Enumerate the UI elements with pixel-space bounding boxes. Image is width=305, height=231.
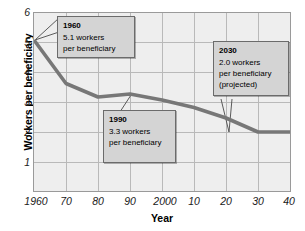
y-tick-label: 1: [14, 157, 30, 168]
y-tick-label: 2: [14, 127, 30, 138]
x-tick-label: 70: [60, 196, 72, 207]
annotation-line-3: (projected): [219, 79, 284, 90]
y-tick-label: 5: [14, 37, 30, 48]
annotation-callout-2030: 2030 2.0 workers per beneficiary (projec…: [213, 41, 289, 96]
x-tick-label: 1960: [24, 196, 47, 207]
x-tick-label: 20: [220, 196, 232, 207]
x-tick-label: 90: [124, 196, 136, 207]
annotation-year: 1960: [63, 20, 130, 31]
x-tick-label: 40: [283, 196, 295, 207]
x-tick-label: 80: [92, 196, 104, 207]
y-tick-label: 6: [14, 7, 30, 18]
x-tick-label: 2000: [153, 196, 176, 207]
x-axis-title: Year: [33, 212, 291, 224]
annotation-line-2: per beneficiary: [109, 137, 171, 148]
annotation-line-1: 2.0 workers: [219, 57, 284, 68]
annotation-callout-1990: 1990 3.3 workers per beneficiary: [103, 110, 176, 163]
annotation-year: 2030: [219, 45, 284, 56]
annotation-line-1: 5.1 workers: [63, 32, 130, 43]
annotation-line-2: per beneficiary: [63, 43, 130, 54]
y-tick-label: 4: [14, 67, 30, 78]
annotation-line-2: per beneficiary: [219, 68, 284, 79]
x-tick-label: 10: [188, 196, 200, 207]
y-tick-label: 3: [14, 97, 30, 108]
annotation-year: 1990: [109, 114, 171, 125]
annotation-callout-1960: 1960 5.1 workers per beneficiary: [57, 16, 135, 58]
x-tick-label: 30: [252, 196, 264, 207]
annotation-line-1: 3.3 workers: [109, 126, 171, 137]
chart-container: Workers per beneficiary 6 5 4 3 2 1: [0, 0, 305, 231]
